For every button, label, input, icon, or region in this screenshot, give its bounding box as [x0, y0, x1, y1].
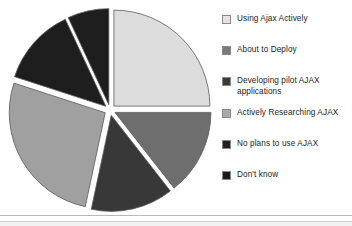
chart-legend: Using Ajax Actively About to Deploy Deve…	[222, 14, 350, 199]
legend-item-label: Developing pilot AJAX applications	[237, 76, 320, 97]
legend-item-label: Don't know	[237, 170, 278, 181]
legend-swatch-icon	[222, 171, 231, 180]
legend-item-label: Using Ajax Actively	[237, 14, 308, 25]
pie-slices-group	[9, 9, 211, 212]
legend-item-no-plans-to-use-ajax[interactable]: No plans to use AJAX	[222, 139, 318, 150]
legend-item-actively-researching-ajax[interactable]: Actively Researching AJAX	[222, 108, 338, 119]
footer-strip	[0, 221, 352, 226]
legend-swatch-icon	[222, 140, 231, 149]
pie-chart-svg	[2, 0, 217, 215]
legend-item-label: No plans to use AJAX	[237, 139, 318, 150]
legend-swatch-icon	[222, 15, 231, 24]
legend-swatch-icon	[222, 46, 231, 55]
pie-chart-area	[2, 0, 217, 215]
pie-chart-figure: Using Ajax Actively About to Deploy Deve…	[0, 0, 352, 226]
legend-item-label: Actively Researching AJAX	[237, 108, 338, 119]
legend-swatch-icon	[222, 77, 231, 86]
legend-item-using-ajax-actively[interactable]: Using Ajax Actively	[222, 14, 308, 25]
legend-item-developing-pilot-ajax-applications[interactable]: Developing pilot AJAX applications	[222, 76, 320, 97]
footer-divider	[0, 215, 352, 216]
legend-item-label: About to Deploy	[237, 45, 297, 56]
legend-item-about-to-deploy[interactable]: About to Deploy	[222, 45, 297, 56]
legend-item-dont-know[interactable]: Don't know	[222, 170, 278, 181]
legend-swatch-icon	[222, 109, 231, 118]
pie-slice[interactable]	[114, 10, 210, 106]
